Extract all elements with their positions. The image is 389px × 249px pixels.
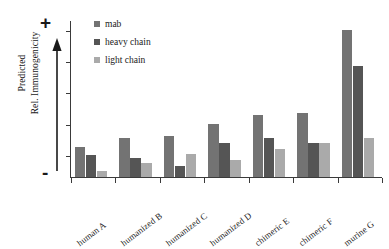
x-axis-tick-label: humanized C [164,211,209,248]
x-axis-tick-labels: human Ahumanized Bhumanized Chumanized D… [0,0,389,249]
x-axis-tick-label: human A [75,220,108,248]
x-axis-tick-label: chimeric F [297,216,335,248]
x-axis-tick-label: chimeric E [253,216,291,248]
x-axis-tick-label: humanized B [119,211,164,248]
x-axis-tick-label: murine G [342,219,376,248]
x-axis-tick-label: humanized D [208,210,253,248]
chart-root: Predicted Rel. Immunogenicity + - mabhea… [0,0,389,249]
